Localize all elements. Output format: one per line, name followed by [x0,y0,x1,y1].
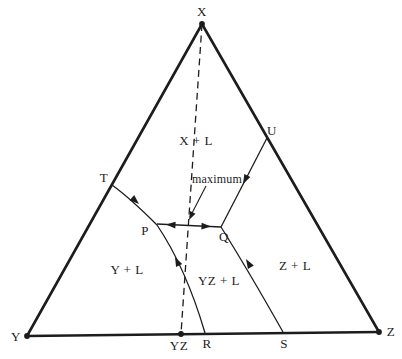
point-p-label: P [141,224,149,237]
vertex-x-dot [199,21,205,27]
region-y-plus-l-label: Y + L [110,263,143,276]
region-x-plus-l-label: X + L [179,134,213,147]
vertex-z-dot [376,329,382,335]
vertex-y-label: Y [11,330,21,343]
arrow-max-to-p-icon [166,221,176,228]
boundary-curve-t-p [112,185,157,225]
point-s-label: S [280,337,288,350]
arrow-s-to-q-icon [243,257,254,269]
maximum-annotation-label: maximum [192,173,242,185]
arrow-r-to-p-icon [172,256,182,268]
point-t-label: T [100,171,108,184]
region-yz-plus-l-label: YZ + L [198,274,240,287]
point-u-label: U [267,124,277,137]
compound-yz-dot [178,331,184,337]
ternary-phase-diagram: X Y Z T U P Q R S YZ X + L Y + L YZ + L … [0,0,402,359]
vertex-y-dot [24,333,30,339]
point-q-label: Q [219,230,229,243]
edge-x-y [27,24,202,336]
arrow-maximum-pointer-icon [186,211,195,221]
compound-yz-label: YZ [170,339,188,352]
arrow-max-to-q-icon [201,223,211,230]
region-z-plus-l-label: Z + L [279,259,311,272]
vertex-z-label: Z [387,325,395,338]
vertex-x-label: X [197,5,207,18]
point-r-label: R [202,337,211,350]
